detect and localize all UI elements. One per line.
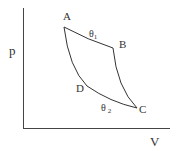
y-axis-label: p bbox=[9, 43, 16, 58]
x-axis-label: V bbox=[150, 134, 160, 149]
adiabat-bc bbox=[113, 48, 137, 108]
theta1-label: θ1 bbox=[89, 28, 98, 41]
point-b-label: B bbox=[119, 38, 126, 50]
isotherm-dc bbox=[87, 86, 137, 108]
adiabat-ad bbox=[64, 27, 87, 86]
point-d-label: D bbox=[76, 82, 84, 94]
point-a-label: A bbox=[63, 10, 71, 22]
pv-diagram: p V A B C D θ1 θ2 bbox=[0, 0, 177, 151]
point-c-label: C bbox=[139, 103, 146, 115]
theta2-label: θ2 bbox=[101, 102, 112, 115]
